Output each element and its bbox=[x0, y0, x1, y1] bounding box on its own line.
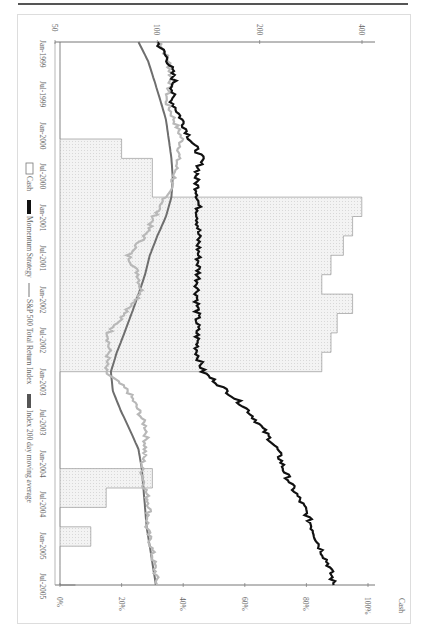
legend-item-ma: Index 200 day moving average bbox=[25, 394, 34, 504]
right-tick-label: 40% bbox=[178, 597, 187, 611]
legend-label-cash: Cash bbox=[25, 176, 34, 191]
right-axis-ticks: 0%20%40%60%80%100% bbox=[55, 583, 372, 615]
legend-label-index: S&P 500 Total Return Index bbox=[25, 299, 34, 385]
time-tick-label: Jul-2003 bbox=[38, 409, 47, 436]
legend: Cash Momentum Strategy S&P 500 Total Ret… bbox=[25, 163, 34, 504]
time-tick-label: Jul-1999 bbox=[38, 81, 47, 108]
left-axis-ticks: 50100200400 bbox=[50, 24, 366, 44]
time-tick-label: Jul-2002 bbox=[38, 327, 47, 354]
time-tick-label: Jul-2005 bbox=[38, 573, 47, 600]
time-tick-label: Jan-2002 bbox=[38, 286, 47, 314]
left-tick-label: 200 bbox=[255, 24, 264, 36]
legend-label-ma: Index 200 day moving average bbox=[25, 410, 34, 504]
time-tick-label: Jan-2001 bbox=[38, 204, 47, 232]
cash-area-series bbox=[60, 42, 362, 585]
rotated-chart: 50100200400 0%20%40%60%80%100% Jan-1999J… bbox=[0, 0, 423, 630]
momentum-swatch-icon bbox=[27, 200, 31, 214]
legend-item-momentum: Momentum Strategy bbox=[25, 200, 34, 278]
time-axis-ticks: Jan-1999Jul-1999Jan-2000Jul-2000Jan-2001… bbox=[38, 40, 47, 600]
time-tick-label: Jan-2005 bbox=[38, 532, 47, 560]
left-tick-label: 100 bbox=[152, 24, 161, 36]
time-tick-label: Jan-2000 bbox=[38, 122, 47, 150]
left-tick-label: 50 bbox=[50, 24, 59, 32]
legend-item-cash: Cash bbox=[25, 163, 34, 191]
index-swatch-icon bbox=[28, 283, 30, 297]
time-tick-label: Jul-2004 bbox=[38, 491, 47, 518]
cash-axis-title: Cash bbox=[397, 598, 406, 613]
left-tick-label: 400 bbox=[357, 24, 366, 36]
time-tick-label: Jan-2003 bbox=[38, 368, 47, 396]
right-tick-label: 100% bbox=[363, 597, 372, 615]
legend-item-index: S&P 500 Total Return Index bbox=[25, 283, 34, 385]
right-tick-label: 80% bbox=[301, 597, 310, 611]
right-tick-label: 0% bbox=[55, 597, 64, 607]
time-tick-label: Jul-2000 bbox=[38, 163, 47, 190]
ma-swatch-icon bbox=[27, 394, 31, 408]
time-tick-label: Jan-2004 bbox=[38, 450, 47, 478]
time-tick-label: Jan-1999 bbox=[38, 40, 47, 68]
legend-label-momentum: Momentum Strategy bbox=[25, 216, 34, 278]
time-tick-label: Jul-2001 bbox=[38, 245, 47, 272]
cash-area bbox=[60, 42, 362, 585]
right-tick-label: 60% bbox=[240, 597, 249, 611]
right-tick-label: 20% bbox=[117, 597, 126, 611]
cash-swatch-icon bbox=[26, 163, 33, 174]
